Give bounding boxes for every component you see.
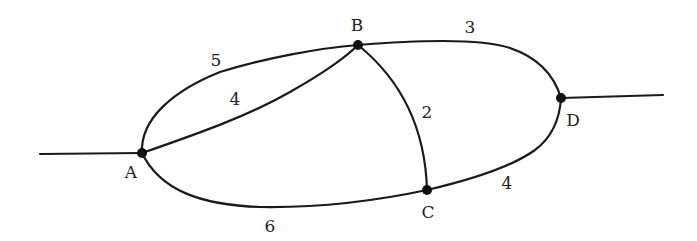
node-a [137,148,147,158]
weight-label-ab-outer: 5 [211,50,222,70]
graph-diagram: A B C D 5 4 3 2 4 6 [0,0,697,241]
node-d [556,93,566,103]
weight-label-cd: 4 [502,173,513,193]
edge-ab-inner [142,45,358,153]
weight-label-ab-inner: 4 [230,89,241,109]
node-label-b: B [351,15,364,35]
node-label-c: C [421,202,434,222]
weight-label-bc: 2 [422,102,433,122]
right-stub-line [561,95,663,98]
node-b [353,40,363,50]
edge-cd [427,98,561,190]
left-stub-line [40,153,142,154]
edge-ab-outer [142,45,358,153]
node-label-d: D [566,110,580,130]
weight-label-ac: 6 [265,216,276,236]
edge-bc [358,45,427,190]
node-c [422,185,432,195]
node-label-a: A [124,162,138,182]
weight-label-bd: 3 [465,17,476,37]
edge-ac [142,153,427,207]
edge-bd [358,41,561,98]
